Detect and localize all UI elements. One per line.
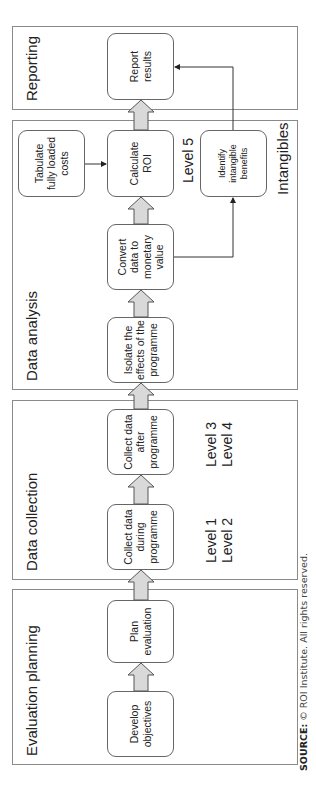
arrows-layer [0,0,316,785]
block-arrow-icon [128,663,154,691]
block-arrow-icon [128,197,154,224]
roi-methodology-diagram: Evaluation planning Data collection Data… [0,0,316,785]
block-arrow-icon [128,290,154,317]
source-text: © ROI Institute. All rights reserved. [298,553,309,724]
block-arrow-icon [128,383,154,409]
source-credit: SOURCE: © ROI Institute. All rights rese… [298,553,309,771]
arrow-intangibles-to-report [175,67,233,130]
source-label: SOURCE: [298,724,309,771]
block-arrow-icon [128,100,154,130]
block-arrow-icon [128,475,154,504]
arrow-convert-to-intangibles [174,198,233,257]
block-arrow-icon [128,570,154,600]
